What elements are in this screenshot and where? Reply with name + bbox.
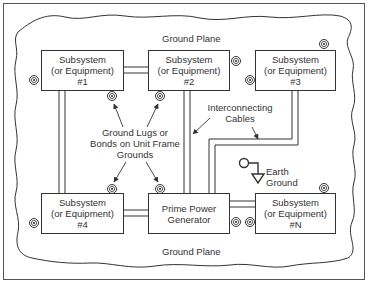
cables-line2: Cables (200, 113, 280, 124)
ground-lugs-line2: Bonds on Unit Frame (78, 138, 192, 149)
box-line3: #1 (77, 76, 88, 87)
ground-lug-icon (108, 92, 117, 101)
ground-lug-icon (320, 184, 329, 193)
ground-lug-icon (320, 40, 329, 49)
box-line1: Subsystem (272, 197, 319, 208)
ground-lugs-line1: Ground Lugs or (78, 127, 192, 138)
subsystem-1: Subsystem (or Equipment) #1 (41, 50, 124, 91)
ground-plane-label-top: Ground Plane (162, 33, 221, 44)
ground-lug-icon (246, 76, 255, 85)
box-line2: (or Equipment) (51, 65, 114, 76)
earth-ground-label: Earth Ground (266, 166, 298, 188)
box-line1: Subsystem (59, 54, 106, 65)
cables-label: Interconnecting Cables (200, 102, 280, 124)
ground-lugs-label: Ground Lugs or Bonds on Unit Frame Groun… (78, 127, 192, 160)
box-line2: Generator (168, 214, 211, 225)
ground-lug-icon (246, 218, 255, 227)
earth-line1: Earth (266, 166, 298, 177)
box-line1: Prime Power (162, 203, 216, 214)
ground-lug-icon (30, 76, 39, 85)
box-line1: Subsystem (59, 197, 106, 208)
box-line1: Subsystem (166, 54, 213, 65)
box-line2: (or Equipment) (264, 65, 327, 76)
ground-lug-icon (232, 218, 241, 227)
box-line3: #2 (184, 76, 195, 87)
cables-line1: Interconnecting (200, 102, 280, 113)
box-line1: Subsystem (272, 54, 319, 65)
ground-lug-icon (232, 57, 241, 66)
earth-ground-icon (240, 159, 265, 184)
box-line2: (or Equipment) (264, 208, 327, 219)
box-line2: (or Equipment) (51, 208, 114, 219)
ground-plane-label-bottom: Ground Plane (162, 246, 221, 257)
ground-lug-icon (156, 92, 165, 101)
box-line3: #4 (77, 219, 88, 230)
prime-power-generator: Prime Power Generator (148, 193, 230, 234)
subsystem-n: Subsystem (or Equipment) #N (255, 193, 336, 234)
subsystem-4: Subsystem (or Equipment) #4 (41, 193, 124, 234)
earth-line2: Ground (266, 177, 298, 188)
box-line3: #N (289, 219, 301, 230)
subsystem-3: Subsystem (or Equipment) #3 (255, 50, 336, 91)
box-line3: #3 (290, 76, 301, 87)
ground-lug-icon (30, 219, 39, 228)
box-line2: (or Equipment) (158, 65, 221, 76)
subsystem-2: Subsystem (or Equipment) #2 (148, 50, 230, 91)
ground-lugs-line3: Grounds (78, 149, 192, 160)
